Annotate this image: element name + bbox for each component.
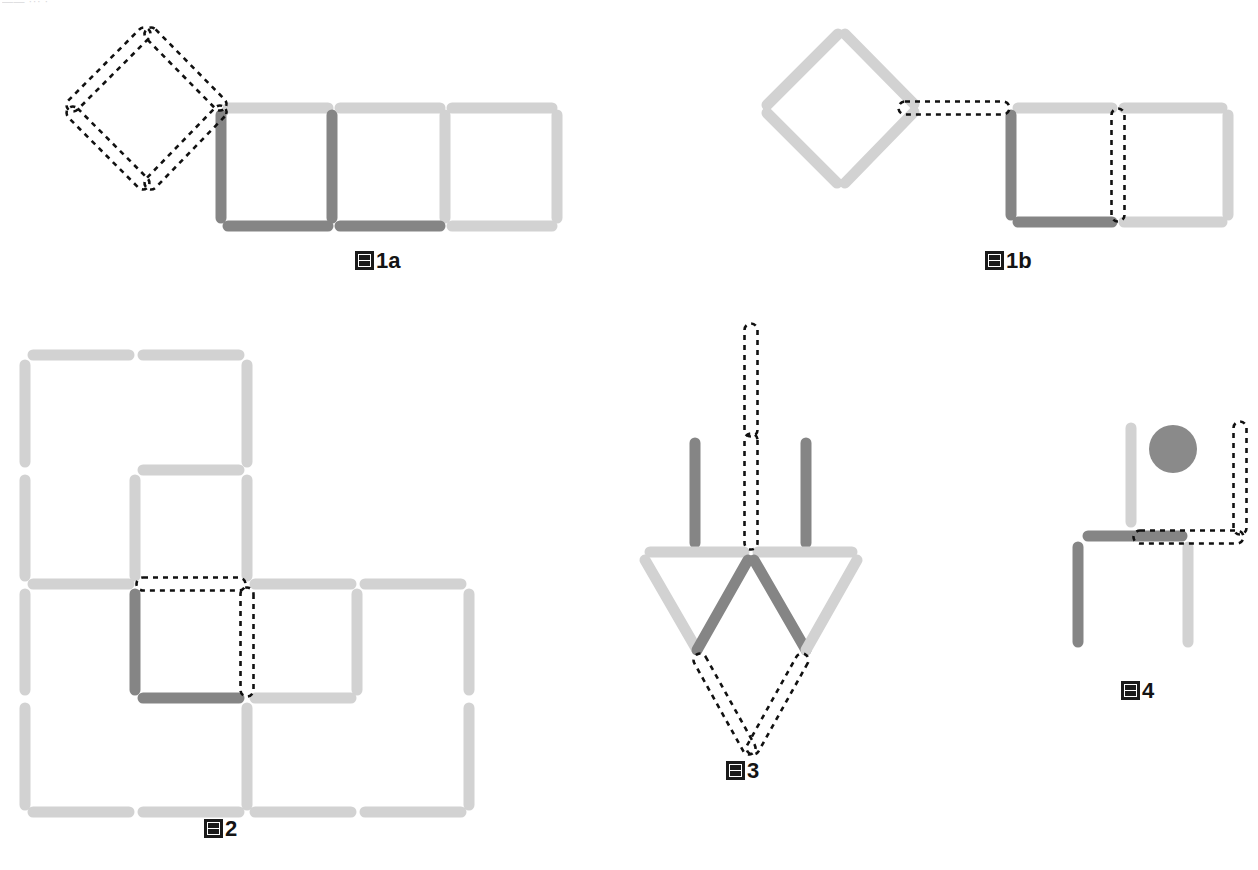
figure-3-tri1-outer-body <box>645 560 697 650</box>
caption-fig3: 3 <box>726 760 759 782</box>
caption-fig1b: 1b <box>985 250 1032 272</box>
figure-3-ghost-shaft-lower <box>745 434 758 550</box>
caption-number: 1b <box>1006 250 1032 272</box>
caption-fig1a: 1a <box>355 250 400 272</box>
figure-1b-ghost-link-horizontal-outline <box>899 102 1010 115</box>
cjk-tofu-glyph-icon <box>726 761 745 780</box>
figure-1b-ghost-link-horizontal <box>899 102 1010 115</box>
figure-1b-diamond-upper-left-body <box>767 34 838 105</box>
figure-3-tri2-inner <box>754 560 806 650</box>
figure-1a-ghost-diamond-upper-left-outline <box>64 25 153 114</box>
figure-4-ghost-upright-right <box>1234 422 1247 535</box>
figure-1b-diamond-upper-right-body <box>845 34 914 104</box>
figure-2-ghost-vertical-right-outline <box>241 588 254 697</box>
figure-1a-ghost-diamond-upper-right <box>142 25 229 113</box>
figure-1b-diamond-lower-right <box>845 112 914 183</box>
figure-3-ghost-v-left <box>691 651 758 757</box>
cjk-tofu-glyph-icon <box>1121 681 1140 700</box>
figure-3-tri2-outer <box>806 560 857 650</box>
figure-3-tri2-inner-body <box>754 560 806 650</box>
figure-1b-diamond-upper-right <box>845 34 914 104</box>
figure-1a-ghost-diamond-lower-left <box>64 104 152 192</box>
figure-1a-ghost-diamond-upper-left <box>64 25 153 114</box>
caption-number: 3 <box>747 760 759 782</box>
caption-fig2: 2 <box>204 818 237 840</box>
figure-3-tri1-outer <box>645 560 697 650</box>
caption-number: 4 <box>1142 680 1154 702</box>
figure-1a-ghost-diamond-lower-right-outline <box>142 103 229 192</box>
figure-3-tri1-inner-body <box>697 560 748 650</box>
cjk-tofu-glyph-icon <box>355 251 374 270</box>
caption-number: 2 <box>225 818 237 840</box>
figure-2-ghost-vertical-right <box>241 588 254 697</box>
figure-3-tri1-inner <box>697 560 748 650</box>
figure-1b-ghost-divider-vertical-outline <box>1112 109 1125 222</box>
caption-fig4: 4 <box>1121 680 1154 702</box>
figure-3-ghost-v-left-outline <box>691 651 758 757</box>
figure-page: —— ··· · 1a 1b 2 3 4 <box>0 0 1258 870</box>
figure-4-gray-ball <box>1149 425 1197 473</box>
figure-3-ghost-shaft-lower-outline <box>745 434 758 550</box>
figure-4-ghost-upright-right-outline <box>1234 422 1247 535</box>
caption-number: 1a <box>376 250 400 272</box>
figure-1b-diamond-lower-left-body <box>767 113 837 183</box>
figure-2-ghost-horizontal-top-outline <box>137 578 246 591</box>
top-cropped-text-fragment: —— ··· · <box>2 0 49 4</box>
cjk-tofu-glyph-icon <box>204 819 223 838</box>
cjk-tofu-glyph-icon <box>985 251 1004 270</box>
figure-1b-diamond-lower-left <box>767 113 837 183</box>
figure-3-ghost-shaft-upper-outline <box>745 324 758 437</box>
figure-1b-diamond-lower-right-body <box>845 112 914 183</box>
figure-4-ghost-seat-extension <box>1134 531 1244 544</box>
figure-1b-ghost-divider-vertical <box>1112 109 1125 222</box>
figure-1a-ghost-diamond-lower-left-outline <box>64 104 152 192</box>
matchstick-diagrams-canvas <box>0 0 1258 870</box>
figure-3-tri2-outer-body <box>806 560 857 650</box>
figure-4-ghost-seat-extension-outline <box>1134 531 1244 544</box>
figure-1a-ghost-diamond-upper-right-outline <box>142 25 229 113</box>
figure-3-ghost-v-right <box>744 651 811 757</box>
figure-1b-diamond-upper-left <box>767 34 838 105</box>
figure-3-ghost-v-right-outline <box>744 651 811 757</box>
figure-3-ghost-shaft-upper <box>745 324 758 437</box>
figure-1a-ghost-diamond-lower-right <box>142 103 229 192</box>
figure-2-ghost-horizontal-top <box>137 578 246 591</box>
